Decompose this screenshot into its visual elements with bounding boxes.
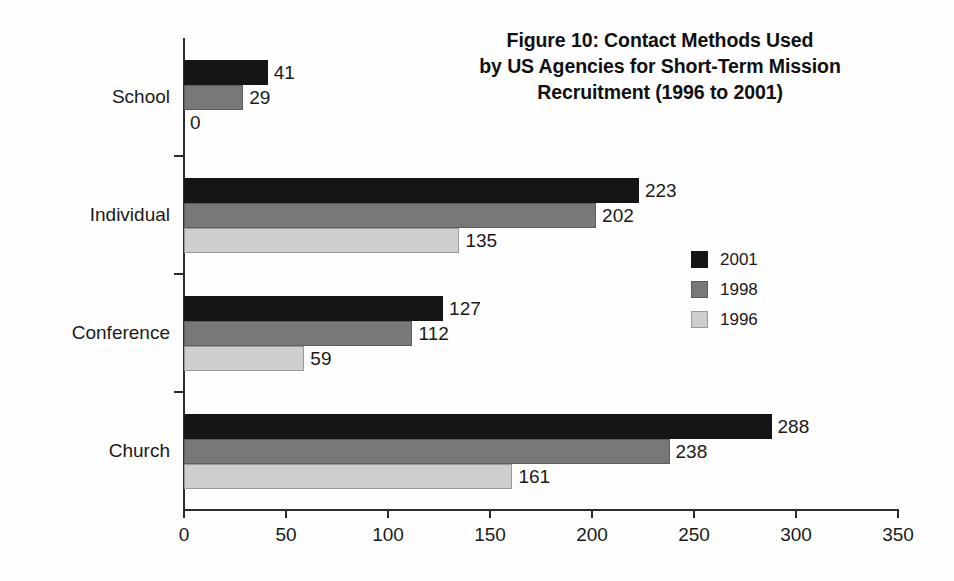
x-tick-label: 100 [372,524,404,546]
bar-individual-1998 [184,203,596,228]
figure-container: Figure 10: Contact Methods Used by US Ag… [0,0,954,581]
x-tick [591,509,593,518]
bar-school-2001 [184,60,268,85]
y-tick [174,391,184,393]
legend-label-2001: 2001 [720,248,758,272]
bar-individual-1996 [184,228,459,253]
bar-value-conference-1996: 59 [304,346,331,371]
category-label-school: School [8,86,170,108]
bar-conference-1996 [184,346,304,371]
category-label-conference: Conference [8,322,170,344]
bar-value-school-2001: 41 [268,60,295,85]
x-tick [693,509,695,518]
legend-label-1998: 1998 [720,278,758,302]
x-tick-label: 250 [678,524,710,546]
bar-value-conference-1998: 112 [412,321,448,346]
x-tick-label: 350 [882,524,914,546]
bar-value-individual-1998: 202 [596,203,634,228]
bar-value-individual-2001: 223 [639,178,677,203]
bar-value-individual-1996: 135 [459,228,497,253]
bar-conference-2001 [184,296,443,321]
category-label-individual: Individual [8,204,170,226]
x-tick-label: 150 [474,524,506,546]
legend-label-1996: 1996 [720,308,758,332]
x-tick [897,509,899,518]
bar-individual-2001 [184,178,639,203]
bar-value-church-2001: 288 [772,414,810,439]
bar-value-church-1996: 161 [512,464,550,489]
legend-swatch-1996 [691,311,708,328]
legend-swatch-2001 [691,251,708,268]
legend-swatch-1998 [691,281,708,298]
bar-church-1996 [184,464,512,489]
bar-school-1998 [184,85,243,110]
x-tick [183,509,185,518]
x-tick [489,509,491,518]
x-tick-label: 300 [780,524,812,546]
bar-value-school-1996: 0 [184,110,201,135]
x-tick-label: 0 [179,524,190,546]
y-tick [174,273,184,275]
x-axis-line [183,509,899,511]
category-label-church: Church [8,440,170,462]
plot-area: 050100150200250300350 SchoolIndividualCo… [184,38,898,510]
bar-conference-1998 [184,321,412,346]
x-tick-label: 50 [275,524,296,546]
bar-value-conference-2001: 127 [443,296,481,321]
x-tick [795,509,797,518]
x-tick [387,509,389,518]
bar-value-church-1998: 238 [670,439,708,464]
bar-value-school-1998: 29 [243,85,270,110]
x-tick-label: 200 [576,524,608,546]
bar-church-1998 [184,439,670,464]
y-tick [174,155,184,157]
bar-church-2001 [184,414,772,439]
x-tick [285,509,287,518]
